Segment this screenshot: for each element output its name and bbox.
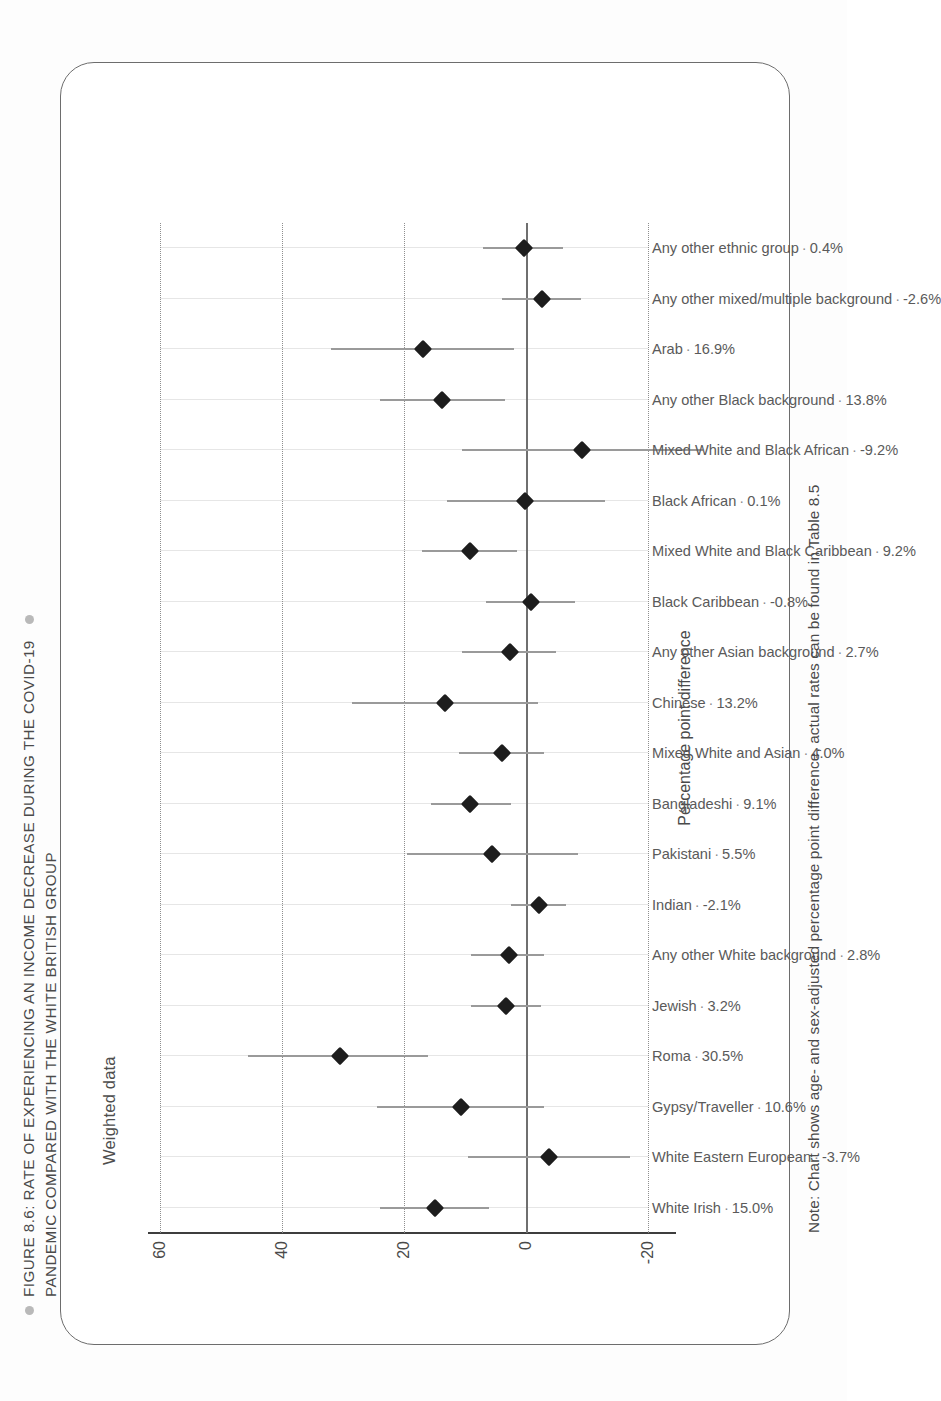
category-label-separator: · <box>692 897 703 913</box>
data-point-marker[interactable] <box>497 997 515 1015</box>
category-label-separator: · <box>706 695 717 711</box>
y-gridline <box>404 223 405 1233</box>
category-value-label: -2.1% <box>703 897 741 913</box>
data-point-marker[interactable] <box>573 441 591 459</box>
category-label: Pakistani·5.5% <box>652 846 755 862</box>
category-label-name: Roma <box>652 1048 691 1064</box>
category-label: Indian·-2.1% <box>652 897 741 913</box>
category-value-label: 30.5% <box>702 1048 743 1064</box>
category-value-label: -9.2% <box>860 442 898 458</box>
category-label-separator: · <box>732 796 743 812</box>
category-label: Any other White background·2.8% <box>652 947 880 963</box>
y-axis-title: Percentage point difference <box>676 223 694 1233</box>
category-label: Mixed White and Black African·-9.2% <box>652 442 898 458</box>
category-label-name: White Eastern European <box>652 1149 811 1165</box>
category-value-label: 15.0% <box>732 1200 773 1216</box>
category-label: Gypsy/Traveller·10.6% <box>652 1099 806 1115</box>
data-point-marker[interactable] <box>530 896 548 914</box>
category-label: Chinese·13.2% <box>652 695 758 711</box>
category-label-separator: · <box>872 543 883 559</box>
y-gridline <box>648 223 649 1233</box>
zero-reference-line <box>526 223 528 1233</box>
category-label: Black African·0.1% <box>652 493 781 509</box>
figure-title-row: FIGURE 8.6: RATE OF EXPERIENCING AN INCO… <box>18 115 61 1315</box>
y-tick-label: 0 <box>517 1241 535 1285</box>
category-value-label: 2.7% <box>845 644 878 660</box>
y-tick-label: 40 <box>273 1241 291 1285</box>
category-value-label: 0.1% <box>747 493 780 509</box>
category-label: White Eastern European·-3.7% <box>652 1149 860 1165</box>
data-point-marker[interactable] <box>425 1199 443 1217</box>
chart-plot-inner: -200204060 <box>160 223 648 1233</box>
category-label-name: Arab <box>652 341 683 357</box>
data-point-marker[interactable] <box>452 1098 470 1116</box>
data-point-marker[interactable] <box>533 290 551 308</box>
category-label-separator: · <box>754 1099 765 1115</box>
category-label-separator: · <box>691 1048 702 1064</box>
category-label: Any other Asian background·2.7% <box>652 644 879 660</box>
category-value-label: 3.2% <box>707 998 740 1014</box>
category-label: Bangladeshi·9.1% <box>652 796 776 812</box>
y-gridline <box>160 223 161 1233</box>
data-point-marker[interactable] <box>514 239 532 257</box>
category-label-name: White Irish <box>652 1200 721 1216</box>
title-bullet-trailing-icon <box>25 615 34 624</box>
figure-title-line-1: FIGURE 8.6: RATE OF EXPERIENCING AN INCO… <box>20 640 37 1297</box>
y-tick-label: -20 <box>639 1241 657 1285</box>
category-label-name: Pakistani <box>652 846 711 862</box>
category-value-label: 16.9% <box>694 341 735 357</box>
category-label-name: Any other mixed/multiple background <box>652 291 892 307</box>
data-point-marker[interactable] <box>500 643 518 661</box>
data-point-marker[interactable] <box>461 542 479 560</box>
data-point-marker[interactable] <box>516 492 534 510</box>
category-label-name: Jewish <box>652 998 697 1014</box>
data-point-marker[interactable] <box>539 1148 557 1166</box>
chart-plot-area: -200204060 <box>160 223 648 1233</box>
page-title: FIGURE 8.6: RATE OF EXPERIENCING AN INCO… <box>18 640 61 1297</box>
category-label-separator: · <box>759 594 770 610</box>
category-label-name: Any other Black background <box>652 392 835 408</box>
data-point-marker[interactable] <box>522 593 540 611</box>
category-label-separator: · <box>835 644 846 660</box>
category-value-label: -2.6% <box>903 291 941 307</box>
data-point-marker[interactable] <box>331 1047 349 1065</box>
category-value-label: 2.8% <box>847 947 880 963</box>
data-point-marker[interactable] <box>483 845 501 863</box>
category-label-name: Any other ethnic group <box>652 240 799 256</box>
category-label-name: Mixed White and Black African <box>652 442 849 458</box>
category-label-separator: · <box>711 846 722 862</box>
data-point-marker[interactable] <box>461 795 479 813</box>
category-label: Arab·16.9% <box>652 341 735 357</box>
category-value-label: 13.8% <box>845 392 886 408</box>
category-label: Roma·30.5% <box>652 1048 743 1064</box>
category-value-label: -3.7% <box>822 1149 860 1165</box>
category-label-separator: · <box>892 291 903 307</box>
category-label-name: Mixed White and Asian <box>652 745 800 761</box>
category-label-separator: · <box>683 341 694 357</box>
category-label-name: Chinese <box>652 695 706 711</box>
category-label-separator: · <box>799 240 810 256</box>
category-label-name: Black African <box>652 493 736 509</box>
data-point-marker[interactable] <box>500 946 518 964</box>
category-value-label: 13.2% <box>716 695 757 711</box>
data-point-marker[interactable] <box>433 391 451 409</box>
chart-subtitle: Weighted data <box>100 1056 119 1165</box>
category-value-label: 9.2% <box>883 543 916 559</box>
category-label-separator: · <box>697 998 708 1014</box>
figure-title-line-2: PANDEMIC COMPARED WITH THE WHITE BRITISH… <box>40 640 62 1297</box>
category-label-name: Indian <box>652 897 692 913</box>
data-point-marker[interactable] <box>414 340 432 358</box>
category-value-label: 9.1% <box>743 796 776 812</box>
data-point-marker[interactable] <box>436 694 454 712</box>
category-label: Any other ethnic group·0.4% <box>652 240 843 256</box>
data-point-marker[interactable] <box>492 744 510 762</box>
category-label-separator: · <box>736 493 747 509</box>
category-value-label: -0.8% <box>770 594 808 610</box>
category-label-separator: · <box>721 1200 732 1216</box>
category-label-separator: · <box>835 392 846 408</box>
category-label: Black Caribbean·-0.8% <box>652 594 808 610</box>
category-label: White Irish·15.0% <box>652 1200 773 1216</box>
category-value-label: 5.5% <box>722 846 755 862</box>
